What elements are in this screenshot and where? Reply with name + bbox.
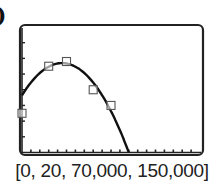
data-point xyxy=(63,58,71,66)
calculator-graph xyxy=(0,0,224,160)
viewing-window-label: [0, 20, 70,000, 150,000] xyxy=(0,160,224,182)
screen-frame xyxy=(20,25,203,155)
data-point xyxy=(89,86,97,94)
data-points xyxy=(18,58,115,118)
data-point xyxy=(45,62,53,70)
data-point xyxy=(107,101,115,109)
data-point xyxy=(18,109,26,117)
